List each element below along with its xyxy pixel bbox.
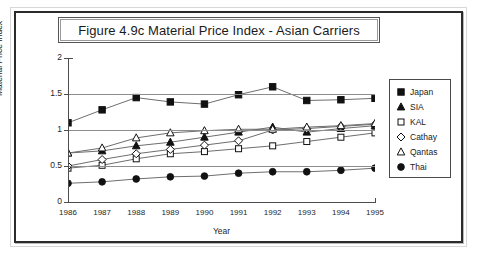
legend-item-label: SIA <box>410 102 424 112</box>
legend-item-thai[interactable]: Thai <box>394 159 450 174</box>
legend-item-kal[interactable]: KAL <box>394 114 450 129</box>
open-triangle-icon <box>394 146 408 158</box>
y-tick-label: 1.5 <box>36 88 62 98</box>
series-line <box>68 87 375 123</box>
data-point <box>337 167 344 174</box>
legend-item-sia[interactable]: SIA <box>394 99 450 114</box>
x-tick-label: 1993 <box>290 208 324 217</box>
series-japan <box>68 84 375 126</box>
data-point <box>372 95 375 101</box>
plot-area <box>68 58 375 202</box>
legend[interactable]: JapanSIAKALCathayQantasThai <box>389 79 451 178</box>
data-point <box>304 97 310 103</box>
x-axis-title: Year <box>68 226 375 236</box>
y-tick-label: 2 <box>36 52 62 62</box>
data-point <box>133 94 139 100</box>
data-point <box>99 107 105 113</box>
series-line <box>68 168 375 183</box>
legend-item-japan[interactable]: Japan <box>394 84 450 99</box>
data-point <box>99 178 106 185</box>
data-point <box>201 173 208 180</box>
data-point <box>133 176 140 183</box>
data-point <box>338 97 344 103</box>
figure-screenshot: Figure 4.9c Material Price Index - Asian… <box>0 0 477 255</box>
filled-triangle-icon <box>394 101 408 113</box>
data-point <box>303 168 310 175</box>
data-point <box>200 141 208 149</box>
legend-item-label: Japan <box>410 87 433 97</box>
series-kal <box>68 130 375 171</box>
y-tick-label: 1 <box>36 124 62 134</box>
data-point <box>236 146 242 152</box>
legend-item-qantas[interactable]: Qantas <box>394 144 450 159</box>
x-tick-label: 1990 <box>187 208 221 217</box>
y-axis-top-cap <box>68 58 73 59</box>
x-tick-label: 1986 <box>51 208 85 217</box>
x-tick-label: 1988 <box>119 208 153 217</box>
legend-item-label: Cathay <box>410 132 437 142</box>
x-tick-label: 1991 <box>222 208 256 217</box>
filled-square-icon <box>394 86 408 98</box>
open-diamond-icon <box>394 131 408 143</box>
legend-item-label: Thai <box>410 162 427 172</box>
gridline <box>68 94 375 95</box>
data-point <box>167 173 174 180</box>
data-point <box>338 134 344 140</box>
data-point <box>304 139 310 145</box>
data-point <box>235 125 243 132</box>
series-line <box>68 133 375 168</box>
legend-item-label: KAL <box>410 117 426 127</box>
x-tick-label: 1989 <box>153 208 187 217</box>
x-tick-label: 1992 <box>256 208 290 217</box>
gridline <box>68 58 375 59</box>
legend-item-label: Qantas <box>410 147 437 157</box>
data-point <box>270 143 276 149</box>
x-tick-label: 1987 <box>85 208 119 217</box>
y-axis-title: Material Price Index <box>0 21 4 96</box>
data-point <box>167 99 173 105</box>
x-tick-label: 1995 <box>358 208 392 217</box>
filled-circle-icon <box>394 161 408 173</box>
legend-item-cathay[interactable]: Cathay <box>394 129 450 144</box>
gridline <box>68 130 375 131</box>
open-square-icon <box>394 116 408 128</box>
gridline <box>68 166 375 167</box>
x-tick-label: 1994 <box>324 208 358 217</box>
x-axis-spine <box>68 202 376 203</box>
data-point <box>235 137 243 145</box>
data-point <box>269 168 276 175</box>
data-point <box>269 84 275 90</box>
y-tick-label: 0.5 <box>36 160 62 170</box>
y-tick-label: 0 <box>36 196 62 206</box>
x-axis-right-cap <box>375 198 376 203</box>
data-point <box>235 170 242 177</box>
data-point <box>201 101 207 107</box>
y-axis-spine <box>68 58 69 203</box>
series-thai <box>68 165 375 187</box>
